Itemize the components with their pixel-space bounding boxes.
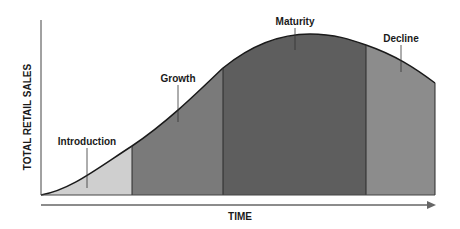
maturity-area xyxy=(223,0,366,195)
growth-label: Growth xyxy=(161,73,196,84)
growth-area xyxy=(132,0,223,195)
decline-label: Decline xyxy=(383,33,419,44)
maturity-label: Maturity xyxy=(276,16,315,27)
introduction-area xyxy=(41,0,132,195)
y-axis-label: TOTAL RETAIL SALES xyxy=(22,64,33,171)
introduction-label: Introduction xyxy=(58,136,116,147)
decline-area xyxy=(366,0,435,195)
x-axis-label: TIME xyxy=(228,211,252,222)
x-axis-arrowhead-icon xyxy=(427,201,436,209)
product-life-cycle-chart: Introduction Growth Maturity Decline TIM… xyxy=(0,0,460,229)
